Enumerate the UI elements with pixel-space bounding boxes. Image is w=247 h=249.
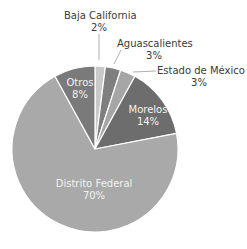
- label-pct: 2%: [64, 22, 134, 34]
- label-morelos: Morelos 14%: [123, 104, 173, 128]
- leader-line-edomex: [133, 71, 156, 72]
- label-aguascalientes: Aguascalientes 3%: [117, 38, 191, 62]
- label-pct: 8%: [60, 89, 100, 101]
- label-name: Distrito Federal: [49, 178, 139, 190]
- label-estado-de-mexico: Estado de México 3%: [157, 65, 241, 89]
- label-name: Aguascalientes: [117, 38, 191, 50]
- label-baja-california: Baja California 2%: [64, 10, 134, 34]
- label-pct: 70%: [49, 190, 139, 202]
- label-pct: 3%: [157, 77, 241, 89]
- label-name: Otros: [60, 77, 100, 89]
- label-distrito-federal: Distrito Federal 70%: [49, 178, 139, 202]
- label-otros: Otros 8%: [60, 77, 100, 101]
- label-pct: 3%: [117, 50, 191, 62]
- label-pct: 14%: [123, 116, 173, 128]
- label-name: Morelos: [123, 104, 173, 116]
- label-name: Baja California: [64, 10, 134, 22]
- label-name: Estado de México: [157, 65, 241, 77]
